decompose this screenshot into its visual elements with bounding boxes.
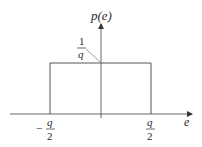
y-axis-label: p(e)	[90, 8, 112, 23]
right-bound-numerator: q	[147, 116, 153, 128]
left-bound-sign: −	[36, 122, 42, 134]
x-axis-label: e	[184, 115, 190, 129]
right-bound-denominator: 2	[147, 130, 153, 142]
height-denominator: q	[78, 48, 84, 60]
left-bound-numerator: q	[47, 116, 53, 128]
pdf-diagram: p(e) 1 q − q 2 q 2 e	[0, 0, 202, 147]
height-numerator: 1	[79, 35, 85, 47]
left-bound-denominator: 2	[47, 130, 53, 142]
height-leader-line	[86, 49, 100, 62]
